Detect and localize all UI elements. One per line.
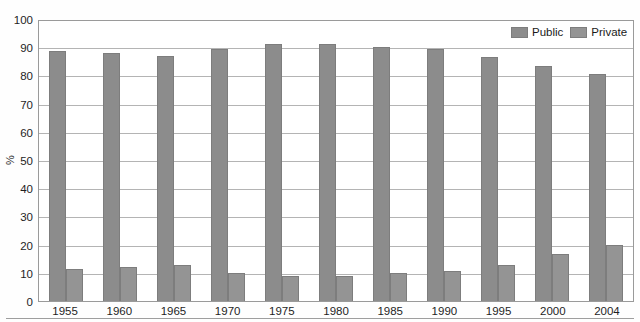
bar-group xyxy=(417,21,471,301)
y-tick-label: 20 xyxy=(3,240,33,252)
y-tick-label: 90 xyxy=(3,42,33,54)
bar-group xyxy=(525,21,579,301)
x-tick-label: 1960 xyxy=(92,303,146,319)
y-tick-label: 60 xyxy=(3,127,33,139)
bar-private-1985 xyxy=(390,273,407,301)
y-tick-label: 0 xyxy=(3,296,33,308)
legend-label-public: Public xyxy=(532,26,563,38)
legend-swatch-public xyxy=(511,27,528,38)
bar-private-1990 xyxy=(444,271,461,301)
bar-public-1960 xyxy=(103,53,120,301)
bottom-divider xyxy=(6,318,634,319)
bar-private-1995 xyxy=(498,265,515,301)
bar-group xyxy=(579,21,633,301)
x-tick-label: 1955 xyxy=(38,303,92,319)
y-axis-tick-labels: 1009080706050403020100 xyxy=(0,0,36,322)
x-tick-label: 1995 xyxy=(472,303,526,319)
bar-public-1955 xyxy=(49,51,66,301)
legend-swatch-private xyxy=(570,27,587,38)
bar-group xyxy=(471,21,525,301)
bars-layer xyxy=(39,21,633,301)
bar-group xyxy=(309,21,363,301)
y-tick-label: 100 xyxy=(3,14,33,26)
plot-area xyxy=(38,20,634,302)
chart-legend: Public Private xyxy=(508,21,630,43)
x-tick-label: 2004 xyxy=(580,303,634,319)
bar-public-1995 xyxy=(481,57,498,301)
bar-group xyxy=(93,21,147,301)
y-tick-label: 70 xyxy=(3,99,33,111)
bar-public-1970 xyxy=(211,49,228,301)
bar-private-1965 xyxy=(174,265,191,301)
x-tick-label: 1980 xyxy=(309,303,363,319)
bar-private-1970 xyxy=(228,273,245,301)
x-tick-label: 1970 xyxy=(201,303,255,319)
bar-public-1980 xyxy=(319,44,336,301)
bar-group xyxy=(147,21,201,301)
legend-label-private: Private xyxy=(591,26,627,38)
bar-private-2000 xyxy=(552,254,569,301)
x-tick-label: 2000 xyxy=(526,303,580,319)
y-tick-label: 80 xyxy=(3,70,33,82)
x-tick-label: 1965 xyxy=(146,303,200,319)
y-tick-label: 40 xyxy=(3,183,33,195)
bar-group xyxy=(39,21,93,301)
bar-private-1960 xyxy=(120,267,137,301)
bar-group xyxy=(363,21,417,301)
bar-public-1990 xyxy=(427,49,444,301)
y-tick-label: 30 xyxy=(3,211,33,223)
x-tick-label: 1975 xyxy=(255,303,309,319)
bar-public-1965 xyxy=(157,56,174,301)
bar-public-2004 xyxy=(589,74,606,301)
bar-public-1985 xyxy=(373,47,390,301)
bar-chart: % 1009080706050403020100 Public Private … xyxy=(0,0,640,322)
legend-entry-private: Private xyxy=(570,26,627,38)
bar-private-1980 xyxy=(336,276,353,301)
x-tick-label: 1985 xyxy=(363,303,417,319)
x-tick-label: 1990 xyxy=(417,303,471,319)
bar-public-1975 xyxy=(265,44,282,301)
legend-entry-public: Public xyxy=(511,26,563,38)
y-tick-label: 50 xyxy=(3,155,33,167)
bar-private-2004 xyxy=(606,245,623,301)
bar-group xyxy=(255,21,309,301)
y-tick-label: 10 xyxy=(3,268,33,280)
x-axis-tick-labels: 1955196019651970197519801985199019952000… xyxy=(38,303,634,319)
bar-group xyxy=(201,21,255,301)
bar-public-2000 xyxy=(535,66,552,301)
bar-private-1975 xyxy=(282,276,299,301)
bar-private-1955 xyxy=(66,269,83,301)
